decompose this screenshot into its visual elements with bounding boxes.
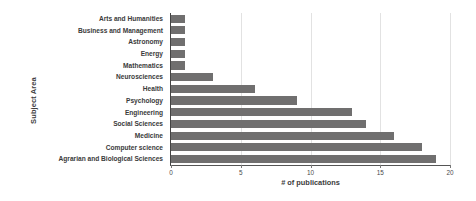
x-axis-tick-label: 10 — [307, 169, 314, 176]
bar-row[interactable] — [171, 71, 450, 83]
y-axis-tick-label: Astronomy — [0, 36, 163, 48]
x-axis-tick-label: 15 — [377, 169, 384, 176]
bar[interactable] — [171, 108, 352, 116]
y-axis-tick-label: Arts and Humanities — [0, 13, 163, 25]
y-axis-tick-label: Medicine — [0, 130, 163, 142]
x-axis-tick-mark — [171, 165, 172, 168]
bar[interactable] — [171, 61, 185, 69]
bar[interactable] — [171, 73, 213, 81]
bar-row[interactable] — [171, 83, 450, 95]
bar-row[interactable] — [171, 36, 450, 48]
gridline — [450, 13, 451, 165]
bar-row[interactable] — [171, 48, 450, 60]
bar[interactable] — [171, 50, 185, 58]
bar[interactable] — [171, 96, 297, 104]
bar[interactable] — [171, 38, 185, 46]
y-axis-tick-label: Social Sciences — [0, 118, 163, 130]
bar-row[interactable] — [171, 95, 450, 107]
y-axis-tick-label: Energy — [0, 48, 163, 60]
bar[interactable] — [171, 155, 436, 163]
bar-row[interactable] — [171, 118, 450, 130]
bar-row[interactable] — [171, 13, 450, 25]
bar-row[interactable] — [171, 142, 450, 154]
x-axis-tick-mark — [241, 165, 242, 168]
bar[interactable] — [171, 85, 255, 93]
y-axis-tick-label: Psychology — [0, 95, 163, 107]
x-axis-tick-mark — [380, 165, 381, 168]
bar-row[interactable] — [171, 107, 450, 119]
x-axis-title: # of publications — [171, 178, 450, 187]
bar-row[interactable] — [171, 25, 450, 37]
bar[interactable] — [171, 143, 422, 151]
y-axis-tick-label: Engineering — [0, 107, 163, 119]
bar-row[interactable] — [171, 153, 450, 165]
y-axis-tick-label: Business and Management — [0, 25, 163, 37]
bar-row[interactable] — [171, 60, 450, 72]
y-axis-tick-label: Mathematics — [0, 60, 163, 72]
x-axis-tick-mark — [311, 165, 312, 168]
x-axis-tick-mark — [450, 165, 451, 168]
y-axis-tick-label: Health — [0, 83, 163, 95]
bar[interactable] — [171, 15, 185, 23]
x-axis-tick-label: 20 — [446, 169, 453, 176]
x-axis-tick-label: 5 — [239, 169, 243, 176]
y-axis-tick-label: Agrarian and Biological Sciences — [0, 153, 163, 165]
x-axis-tick-label: 0 — [169, 169, 173, 176]
bar-chart: Subject Area Arts and HumanitiesBusiness… — [0, 0, 476, 201]
plot-area — [171, 13, 450, 165]
bar[interactable] — [171, 120, 366, 128]
bar[interactable] — [171, 26, 185, 34]
y-axis-tick-label: Neurosciences — [0, 71, 163, 83]
bar-row[interactable] — [171, 130, 450, 142]
bar[interactable] — [171, 132, 394, 140]
y-axis-tick-label: Computer science — [0, 142, 163, 154]
y-axis-tick-labels: Arts and HumanitiesBusiness and Manageme… — [0, 13, 167, 165]
